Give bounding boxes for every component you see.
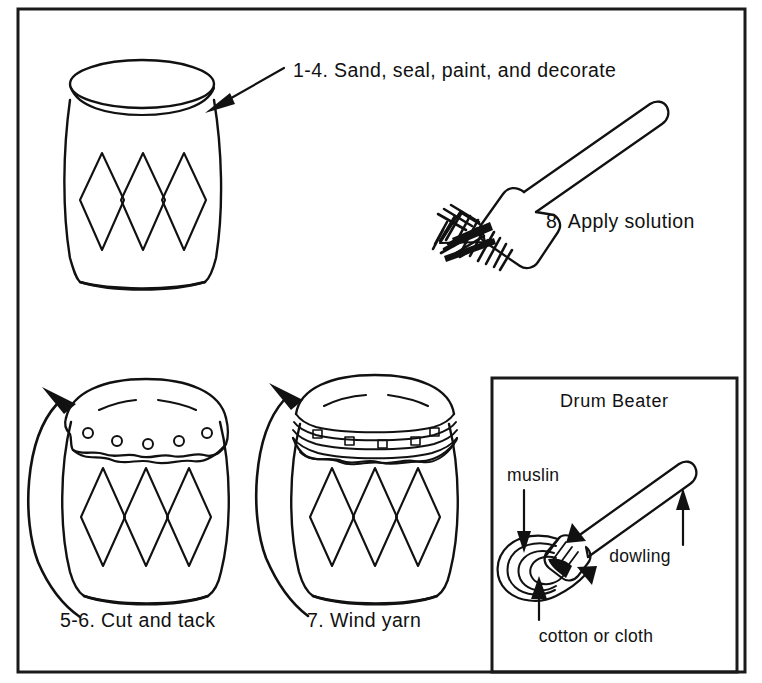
drum56-head-shade-2: [158, 400, 196, 410]
drum-instructions-figure: 1-4. Sand, seal, paint, and decorate: [0, 0, 762, 683]
beater-binding-flare-bottom: [577, 566, 597, 585]
figure-root: 1-4. Sand, seal, paint, and decorate: [0, 0, 762, 683]
beater-cotton-shade: [548, 558, 572, 578]
drum56-diamond-3: [167, 468, 211, 566]
step-5-6-arrow-shaft: [28, 404, 80, 617]
step-1-4-caption: 1-4. Sand, seal, paint, and decorate: [293, 59, 616, 81]
step-7-caption: 7. Wind yarn: [307, 609, 421, 631]
drum7-head-shade-1: [324, 395, 366, 406]
drum-diamond-1: [80, 153, 124, 250]
tack-3: [143, 439, 153, 449]
inset-title: Drum Beater: [560, 391, 669, 411]
yarn-tack-2: [345, 437, 354, 445]
step-1-4-illustration: [64, 60, 284, 290]
tack-1: [83, 428, 93, 438]
drum-body-outline: [64, 100, 221, 288]
drum56-head-shade-1: [99, 400, 136, 410]
drum56-head-dome: [66, 379, 226, 418]
drum-rim-outer: [70, 60, 214, 108]
inset-label-cotton-or-cloth: cotton or cloth: [539, 626, 653, 646]
tack-2: [112, 436, 122, 446]
tack-5: [202, 428, 212, 438]
drum-diamond-3: [162, 153, 206, 250]
step-5-6-arrow-head: [42, 387, 76, 414]
step-5-6-caption: 5-6. Cut and tack: [60, 609, 215, 631]
step-5-6-illustration: [28, 379, 229, 617]
drum7-diamond-2: [353, 468, 397, 566]
step-8-illustration: [433, 102, 668, 270]
drum7-head-shade-2: [388, 395, 428, 406]
paintbrush-handle: [524, 102, 668, 212]
drum7-diamond-1: [310, 468, 354, 566]
step-7-illustration: [256, 375, 458, 616]
drum7-diamond-3: [396, 468, 440, 566]
step-8-caption: 8. Apply solution: [546, 210, 695, 232]
inset-label-dowling: dowling: [609, 546, 670, 566]
drum56-diamond-1: [81, 468, 125, 566]
inset-label-muslin: muslin: [507, 465, 559, 485]
drum7-body-outline: [291, 424, 458, 604]
drum-diamond-2: [121, 153, 165, 250]
step-7-arrow-shaft: [256, 400, 308, 616]
drum56-diamond-2: [124, 468, 168, 566]
drum-bottom-edge: [80, 282, 205, 290]
drum7-head-dome: [296, 375, 454, 414]
step-1-4-arrow-shaft: [226, 68, 284, 101]
tack-4: [174, 436, 184, 446]
drum-beater-inset: Drum Beater muslin: [492, 378, 737, 672]
